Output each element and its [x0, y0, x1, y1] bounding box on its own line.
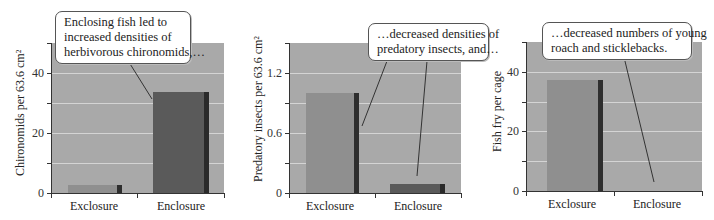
- y-tick-label: 0: [252, 187, 282, 199]
- y-tick: [522, 72, 527, 73]
- annotation-callout: …decreased densities of predatory insect…: [368, 23, 489, 61]
- y-axis: [526, 42, 527, 192]
- chart-chironomids: 40 20 0 Exclosure Enclosure Chironomids …: [0, 0, 240, 220]
- callout-line: Enclosing fish led to: [64, 15, 182, 30]
- x-category-label: Enclosure: [612, 197, 702, 212]
- callout-line: predatory insects, and…: [377, 42, 480, 57]
- x-category-label: Exclosure: [527, 197, 617, 212]
- callout-line: herbivorous chironomids,…: [64, 45, 182, 60]
- y-axis-label: Chironomids per 63.6 cm²: [13, 50, 28, 176]
- annotation-callout: Enclosing fish led to increased densitie…: [55, 11, 191, 64]
- callout-line: …decreased numbers of young: [551, 26, 683, 41]
- bar-enclosure: [390, 184, 445, 193]
- bar-exclosure: [547, 80, 603, 191]
- y-tick: [522, 131, 527, 132]
- y-tick: [285, 73, 290, 74]
- plot-area: [51, 43, 224, 193]
- y-tick: [47, 103, 52, 104]
- chart-predatory-insects: 1.2 0.6 0 Exclosure Enclosure Predatory …: [240, 0, 480, 220]
- x-tick: [289, 193, 290, 198]
- y-tick: [47, 73, 52, 74]
- bar-enclosure: [153, 92, 209, 193]
- y-tick: [522, 161, 527, 162]
- y-tick: [285, 43, 290, 44]
- callout-line: roach and sticklebacks.: [551, 41, 683, 56]
- y-tick: [285, 103, 290, 104]
- y-tick: [522, 102, 527, 103]
- x-tick: [614, 191, 615, 196]
- y-tick: [285, 163, 290, 164]
- gridline: [51, 73, 224, 74]
- callout-line: …decreased densities of: [377, 27, 480, 42]
- x-tick: [51, 193, 52, 198]
- y-tick-label: 0: [14, 187, 44, 199]
- x-tick: [224, 193, 225, 198]
- bar-edge: [117, 185, 122, 193]
- bar-edge: [440, 184, 445, 193]
- bar-edge: [204, 92, 209, 193]
- y-axis-label: Fish fry per cage: [490, 71, 505, 152]
- bar-edge: [354, 93, 359, 193]
- gridline: [289, 73, 461, 74]
- gridline: [526, 72, 702, 73]
- y-tick-label: 0: [489, 185, 519, 197]
- callout-line: increased densities of: [64, 30, 182, 45]
- y-axis-label: Predatory insects per 63.6 cm²: [251, 36, 266, 182]
- y-tick: [285, 133, 290, 134]
- x-tick: [137, 193, 138, 198]
- x-category-label: Enclosure: [373, 199, 463, 214]
- chart-fish-fry: 40 20 0 Exclosure Enclosure Fish fry per…: [474, 0, 714, 220]
- annotation-callout: …decreased numbers of young roach and st…: [542, 22, 692, 60]
- bar-edge: [598, 80, 603, 191]
- x-category-label: Enclosure: [136, 199, 226, 214]
- y-tick: [47, 133, 52, 134]
- x-category-label: Exclosure: [49, 199, 139, 214]
- y-axis: [289, 43, 290, 194]
- y-tick: [47, 163, 52, 164]
- x-tick: [461, 193, 462, 198]
- x-category-label: Exclosure: [285, 199, 375, 214]
- y-tick: [522, 42, 527, 43]
- x-tick: [375, 193, 376, 198]
- x-tick: [702, 191, 703, 196]
- x-axis: [51, 193, 225, 194]
- bar-exclosure: [306, 93, 359, 193]
- plot-area: [289, 43, 461, 193]
- plot-area: [526, 42, 702, 191]
- y-axis: [51, 43, 52, 194]
- x-tick: [526, 191, 527, 196]
- y-tick: [47, 43, 52, 44]
- bar-exclosure: [68, 185, 122, 193]
